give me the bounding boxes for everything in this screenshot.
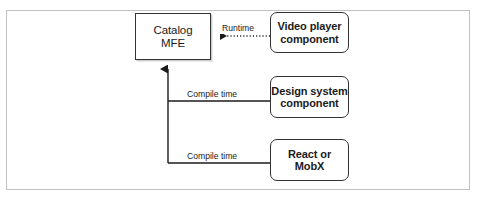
node-react-mobx-label: React or MobX <box>288 148 331 173</box>
node-video-player[interactable]: Video player component <box>270 12 349 53</box>
edge-label-compile-design-system: Compile time <box>184 88 240 100</box>
node-design-system-label: Design system component <box>271 85 347 110</box>
edge-label-runtime: Runtime <box>219 22 257 34</box>
node-design-system[interactable]: Design system component <box>270 76 349 118</box>
node-react-mobx[interactable]: React or MobX <box>270 139 349 181</box>
diagram-figure: Catalog MFE Video player component Desig… <box>0 0 480 199</box>
node-video-player-label: Video player component <box>277 20 341 45</box>
edge-label-compile-react-mobx: Compile time <box>184 150 240 162</box>
node-catalog-mfe[interactable]: Catalog MFE <box>135 13 211 60</box>
node-catalog-mfe-label: Catalog MFE <box>154 24 193 50</box>
